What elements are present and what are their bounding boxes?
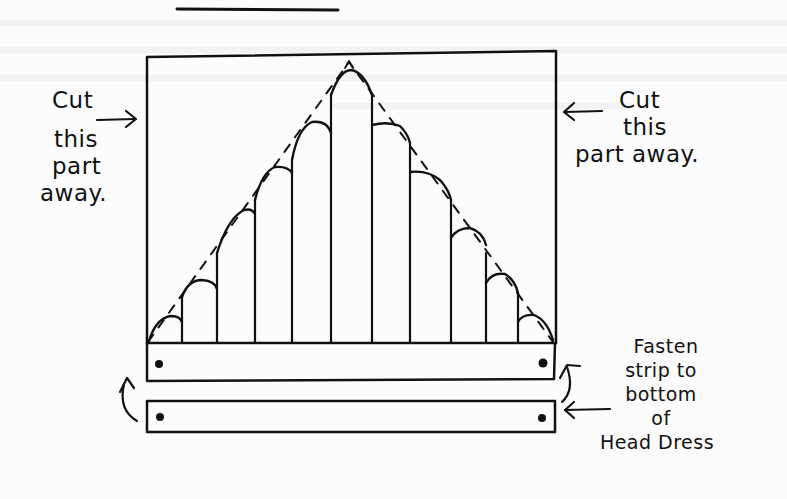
label-line: part [52,153,107,180]
loose-strip [147,401,555,432]
attached-strip [147,343,555,381]
label-line: this [623,114,699,141]
fasten-strip-label: Fasten strip to bottom of Head Dress [576,334,746,454]
apex-mark [345,61,353,68]
label-line: Cut [52,87,107,114]
left-curved-arrow-icon [120,378,137,421]
label-line: this [54,126,107,153]
column-arches [149,70,553,341]
label-line: strip to [576,358,746,382]
cut-right-label: Cut this part away. [575,110,699,168]
label-line: bottom [576,382,746,406]
rivet-hole [155,360,163,368]
cut-left-label: Cut this part away. [40,143,107,207]
label-line: Cut [619,87,699,114]
page: Cut this part away. Cut this part away. … [0,0,787,499]
rivet-hole [538,414,546,422]
rivet-hole [156,413,164,421]
label-line: away. [40,180,107,207]
dashed-guide-triangle [148,62,553,342]
label-line: Head Dress [568,430,746,454]
label-line: part away. [575,141,699,168]
rivet-hole [539,359,548,368]
top-rule [177,9,338,10]
label-line: Fasten [586,334,746,358]
headdress-outline [147,51,556,343]
label-line: of [576,406,746,430]
